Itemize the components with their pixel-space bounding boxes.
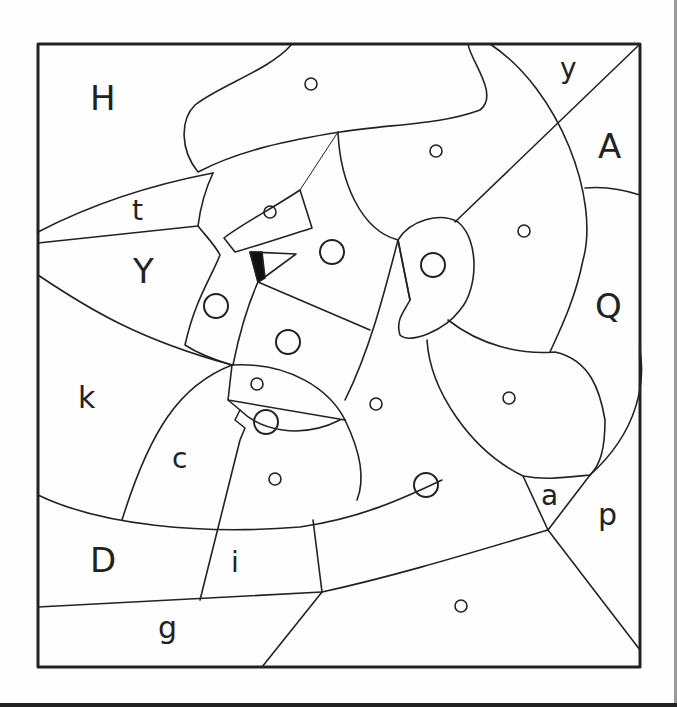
small-circles [251,78,530,612]
g-line [38,592,322,607]
column-line [313,520,322,592]
letter-label-p: p [598,497,617,532]
small-circle [455,600,467,612]
letter-label-D: D [90,540,116,580]
large-circle [276,330,300,354]
mouth-arc [232,365,345,420]
bottom-curve [38,480,442,530]
a-divider [585,187,640,195]
shoulder [448,320,605,475]
nose-line [233,282,258,365]
brow-line [300,132,338,190]
letter-label-y: y [560,52,577,85]
line-drawing: H y A t Y Q k c a p D i g [0,0,677,707]
letter-label-i: i [231,546,239,579]
letter-label-g: g [158,610,177,645]
cheek-line [258,282,370,330]
small-circle [370,398,382,410]
small-circle [305,78,317,90]
large-circle [320,240,344,264]
forehead-curve [338,132,398,240]
letter-label-H: H [90,78,116,118]
brim-line-2 [38,226,198,243]
small-circle [430,145,442,157]
large-circle [204,294,228,318]
eye-pupil [250,252,265,282]
lower-diag [548,530,640,650]
ear-outline [398,218,474,338]
ear-line [398,240,410,300]
eyebrow [224,190,312,252]
small-circle [269,473,281,485]
letter-label-c: c [172,442,187,475]
large-circle [414,473,438,497]
back-arc [490,44,587,352]
face-profile [185,173,232,365]
letter-label-t: t [132,194,143,227]
lower-line [322,530,548,592]
neck-right [427,340,642,478]
letter-label-Y: Y [132,251,154,291]
mouth-top [228,365,345,420]
letter-label-Q: Q [595,286,622,326]
bottom-diag [262,592,322,667]
large-circle [421,253,445,277]
small-circle [503,392,515,404]
small-circle [518,225,530,237]
letter-label-k: k [78,380,96,415]
letter-label-a: a [541,479,558,512]
brim-line [38,173,213,232]
large-circles [204,240,445,497]
small-circle [251,378,263,390]
letter-label-A: A [598,126,621,166]
coloring-page: H y A t Y Q k c a p D i g [0,0,677,707]
neck-left [345,240,398,400]
beard-right [345,420,361,500]
